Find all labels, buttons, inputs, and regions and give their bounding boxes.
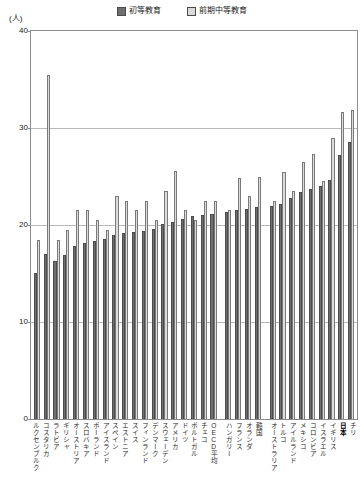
bar-secondary <box>164 191 167 419</box>
x-axis-label-text: ドイツ <box>181 422 188 496</box>
x-axis-label-text: OECD平均 <box>210 422 217 496</box>
bar-group <box>179 31 189 419</box>
x-axis-label: スペイン <box>110 422 120 496</box>
x-axis-label-text: イギリス <box>329 422 336 496</box>
x-axis-label-text: コロンビア <box>309 422 316 496</box>
x-axis-label-text: トルコ <box>279 422 286 496</box>
x-axis-label: フランス <box>234 422 244 496</box>
y-axis-unit-label: (人) <box>9 14 22 23</box>
x-axis-label-text: ハンガリー <box>225 422 232 496</box>
bar-group <box>189 31 199 419</box>
x-axis-label: 韓国 <box>253 422 263 496</box>
x-axis-label: アイルランド <box>288 422 298 496</box>
bar-secondary <box>322 181 325 419</box>
x-axis-label-text: オーストリア <box>72 422 79 496</box>
x-axis-label: ドイツ <box>179 422 189 496</box>
bar-group <box>91 31 101 419</box>
x-axis-label: イスラエル <box>318 422 328 496</box>
legend-label-secondary: 前期中等教育 <box>199 6 247 16</box>
x-axis-label-text: ポルトガル <box>190 422 197 496</box>
x-axis-label-text: オーストラリア <box>270 422 277 496</box>
bar-group <box>327 31 337 419</box>
x-axis-label: オーストラリア <box>268 422 278 496</box>
x-axis-label-text: イスラエル <box>319 422 326 496</box>
bar-group <box>287 31 297 419</box>
x-axis-label: ギリシャ <box>61 422 71 496</box>
bar-secondary <box>204 201 207 419</box>
x-axis-label-text: ギリシャ <box>62 422 69 496</box>
x-axis-label-text: スペイン <box>111 422 118 496</box>
bar-group <box>150 31 160 419</box>
bar-group <box>297 31 307 419</box>
bar-group <box>253 31 263 419</box>
bar-secondary <box>37 240 40 419</box>
bar-secondary <box>115 196 118 419</box>
bar-secondary <box>341 112 344 419</box>
plot-area: 010203040 <box>30 30 358 420</box>
x-axis-label: ハンガリー <box>224 422 234 496</box>
bar-secondary <box>194 220 197 419</box>
x-axis-label: チリ <box>347 422 357 496</box>
bar-secondary <box>292 191 295 419</box>
bar-group <box>130 31 140 419</box>
bar-secondary <box>238 178 241 419</box>
bar-secondary <box>351 110 354 419</box>
x-axis-label: オランダ <box>243 422 253 496</box>
y-tick-label: 0 <box>24 415 28 423</box>
bar-group <box>42 31 52 419</box>
x-axis-label-text: スイス <box>131 422 138 496</box>
bar-group <box>160 31 170 419</box>
bar-group <box>199 31 209 419</box>
bar-group <box>81 31 91 419</box>
bar-group <box>223 31 233 419</box>
x-axis-label: ラトビア <box>51 422 61 496</box>
x-axis-label-text: アイルランド <box>289 422 296 496</box>
bar-secondary <box>145 201 148 419</box>
bar-secondary <box>96 220 99 419</box>
x-axis-label-text: 日本 <box>339 422 346 496</box>
bar-group <box>268 31 278 419</box>
x-axis-label: ポルトガル <box>189 422 199 496</box>
chart-legend: 初等教育 前期中等教育 <box>0 6 364 16</box>
bar-secondary <box>57 240 60 419</box>
bar-secondary <box>174 171 177 419</box>
x-axis-label-text: スロバキア <box>82 422 89 496</box>
x-axis-label: イギリス <box>327 422 337 496</box>
legend-item-primary: 初等教育 <box>117 6 161 16</box>
bar-secondary <box>228 210 231 419</box>
bar-secondary <box>312 154 315 419</box>
x-axis-label: ルクセンブルク <box>31 422 41 496</box>
legend-item-secondary: 前期中等教育 <box>187 6 247 16</box>
x-axis-label-text: チリ <box>349 422 356 496</box>
bar-series-container <box>31 31 357 419</box>
bar-secondary <box>155 220 158 419</box>
x-axis-label: ポーランド <box>90 422 100 496</box>
bar-secondary <box>214 201 217 419</box>
bar-secondary <box>258 177 261 420</box>
bar-group <box>61 31 71 419</box>
bar-secondary <box>76 210 79 419</box>
bar-secondary <box>106 230 109 419</box>
x-axis-label-text: フランス <box>235 422 242 496</box>
bar-secondary <box>86 210 89 419</box>
bar-secondary <box>135 210 138 419</box>
x-axis-labels: ルクセンブルクコスタリカラトビアギリシャオーストリアスロバキアポーランドアイスラ… <box>30 422 358 496</box>
y-tick-label: 10 <box>19 318 28 326</box>
bar-group <box>101 31 111 419</box>
x-axis-label: エストニア <box>120 422 130 496</box>
bar-group <box>278 31 288 419</box>
x-axis-label: コロンビア <box>308 422 318 496</box>
bar-secondary <box>331 138 334 419</box>
legend-label-primary: 初等教育 <box>129 6 161 16</box>
bar-group <box>307 31 317 419</box>
bar-group <box>120 31 130 419</box>
x-axis-label: OECD平均 <box>209 422 219 496</box>
x-axis-label-text: デンマーク <box>151 422 158 496</box>
bar-group <box>111 31 121 419</box>
x-axis-label-text: ポーランド <box>92 422 99 496</box>
bar-secondary <box>125 201 128 419</box>
x-axis-label: アメリカ <box>169 422 179 496</box>
bar-group <box>233 31 243 419</box>
bar-secondary <box>184 210 187 419</box>
x-axis-label: デンマーク <box>150 422 160 496</box>
